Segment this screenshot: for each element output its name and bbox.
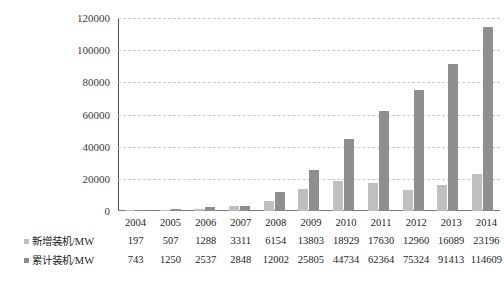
year-header-cell: 2008 <box>258 214 293 232</box>
bar-group <box>361 18 396 211</box>
table-cell: 507 <box>153 232 188 251</box>
bar-group <box>431 18 466 211</box>
table-cell: 743 <box>118 251 153 270</box>
bar <box>125 210 135 211</box>
table-cell: 13803 <box>293 232 328 251</box>
chart-figure: 020000400006000080000100000120000 200420… <box>0 0 504 286</box>
bar <box>437 185 447 211</box>
bar-group <box>257 18 292 211</box>
series-legend-label: 新增装机/MW <box>0 232 118 251</box>
data-table-grid: 2004200520062007200820092010201120122013… <box>0 214 504 269</box>
bar <box>403 190 413 211</box>
y-axis-tick-label: 40000 <box>0 142 110 153</box>
y-axis-tick-label: 60000 <box>0 110 110 121</box>
year-header-cell: 2006 <box>188 214 223 232</box>
bar <box>344 139 354 211</box>
table-cell: 2537 <box>188 251 223 270</box>
legend-swatch-icon <box>24 239 29 244</box>
table-cell: 16089 <box>434 232 469 251</box>
bar <box>171 209 181 211</box>
table-cell: 18929 <box>328 232 363 251</box>
table-cell: 114609 <box>469 251 504 270</box>
table-cell: 62364 <box>364 251 399 270</box>
bar <box>275 192 285 211</box>
table-cell: 12960 <box>399 232 434 251</box>
year-header-cell: 2010 <box>328 214 363 232</box>
bar <box>194 209 204 211</box>
table-cell: 197 <box>118 232 153 251</box>
bar-group <box>153 18 188 211</box>
bar <box>472 174 482 211</box>
year-header-cell: 2013 <box>434 214 469 232</box>
data-table: 2004200520062007200820092010201120122013… <box>0 214 504 286</box>
year-header-cell: 2005 <box>153 214 188 232</box>
year-header-cell: 2012 <box>399 214 434 232</box>
series-legend-label: 累计装机/MW <box>0 251 118 270</box>
table-cell: 1250 <box>153 251 188 270</box>
bar <box>264 201 274 211</box>
table-cell: 44734 <box>328 251 363 270</box>
bar-group <box>292 18 327 211</box>
bar <box>414 90 424 211</box>
table-row: 累计装机/MW743125025372848120022580544734623… <box>0 251 504 270</box>
table-cell: 91413 <box>434 251 469 270</box>
table-cell: 3311 <box>223 232 258 251</box>
plot-area: 020000400006000080000100000120000 <box>118 18 500 211</box>
table-row-years: 2004200520062007200820092010201120122013… <box>0 214 504 232</box>
year-header-cell: 2014 <box>469 214 504 232</box>
bar-group <box>326 18 361 211</box>
bar-group <box>222 18 257 211</box>
bar <box>333 181 343 211</box>
y-axis-tick-label: 20000 <box>0 174 110 185</box>
bar-group <box>396 18 431 211</box>
bar <box>379 111 389 211</box>
table-cell: 23196 <box>469 232 504 251</box>
table-cell: 1288 <box>188 232 223 251</box>
y-axis-tick-label: 100000 <box>0 45 110 56</box>
bar-group <box>118 18 153 211</box>
bar <box>448 64 458 211</box>
table-cell: 17630 <box>364 232 399 251</box>
bar-group <box>465 18 500 211</box>
bar <box>160 210 170 211</box>
bar <box>136 210 146 211</box>
table-row: 新增装机/MW197507128833116154138031892917630… <box>0 232 504 251</box>
legend-swatch-icon <box>24 258 29 263</box>
bar <box>368 183 378 211</box>
table-cell: 6154 <box>258 232 293 251</box>
table-cell: 25805 <box>293 251 328 270</box>
year-row-head <box>0 214 118 232</box>
y-axis-tick-label: 120000 <box>0 13 110 24</box>
legend-label-text: 累计装机/MW <box>32 254 94 265</box>
table-cell: 75324 <box>399 251 434 270</box>
bar <box>205 207 215 211</box>
legend-label-text: 新增装机/MW <box>32 236 94 247</box>
year-header-cell: 2004 <box>118 214 153 232</box>
bar <box>309 170 319 212</box>
year-header-cell: 2009 <box>293 214 328 232</box>
year-header-cell: 2007 <box>223 214 258 232</box>
bar <box>240 206 250 211</box>
bar <box>483 27 493 211</box>
y-axis-tick-label: 80000 <box>0 77 110 88</box>
bar-series-container <box>118 18 500 211</box>
bar <box>229 206 239 211</box>
table-cell: 12002 <box>258 251 293 270</box>
bar-group <box>187 18 222 211</box>
year-header-cell: 2011 <box>364 214 399 232</box>
table-cell: 2848 <box>223 251 258 270</box>
bar <box>298 189 308 211</box>
